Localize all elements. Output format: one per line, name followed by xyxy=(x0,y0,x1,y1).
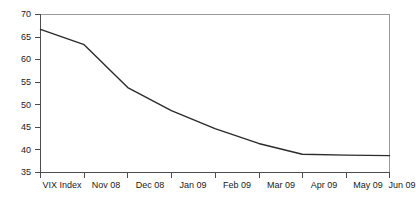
x-tick-label-vix-index: VIX Index xyxy=(42,180,82,190)
y-tick-label-70: 70 xyxy=(21,9,31,19)
y-tick-labels: 70 65 60 55 50 45 40 35 xyxy=(21,9,31,177)
y-tick-label-55: 55 xyxy=(21,77,31,87)
vix-index-series-line xyxy=(41,29,390,155)
y-tick-label-35: 35 xyxy=(21,167,31,177)
x-tick-label-dec-08: Dec 08 xyxy=(136,180,165,190)
y-tick-label-65: 65 xyxy=(21,32,31,42)
x-tick-label-apr-09: Apr 09 xyxy=(311,180,338,190)
x-tick-marks xyxy=(41,173,390,178)
x-tick-label-mar-09: Mar 09 xyxy=(267,180,295,190)
x-tick-label-may-09: May 09 xyxy=(353,180,383,190)
y-tick-label-40: 40 xyxy=(21,145,31,155)
y-tick-label-60: 60 xyxy=(21,54,31,64)
x-tick-label-nov-08: Nov 08 xyxy=(92,180,121,190)
x-tick-label-jun-09: Jun 09 xyxy=(388,180,415,190)
y-tick-marks xyxy=(35,15,40,173)
chart-canvas: 70 65 60 55 50 45 40 35 VIX Index Nov 08… xyxy=(0,0,416,203)
y-tick-label-50: 50 xyxy=(21,100,31,110)
x-tick-label-feb-09: Feb 09 xyxy=(223,180,251,190)
vix-index-line-chart: 70 65 60 55 50 45 40 35 VIX Index Nov 08… xyxy=(0,0,416,203)
x-tick-labels: VIX Index Nov 08 Dec 08 Jan 09 Feb 09 Ma… xyxy=(42,180,415,190)
x-tick-label-jan-09: Jan 09 xyxy=(179,180,206,190)
y-tick-label-45: 45 xyxy=(21,122,31,132)
